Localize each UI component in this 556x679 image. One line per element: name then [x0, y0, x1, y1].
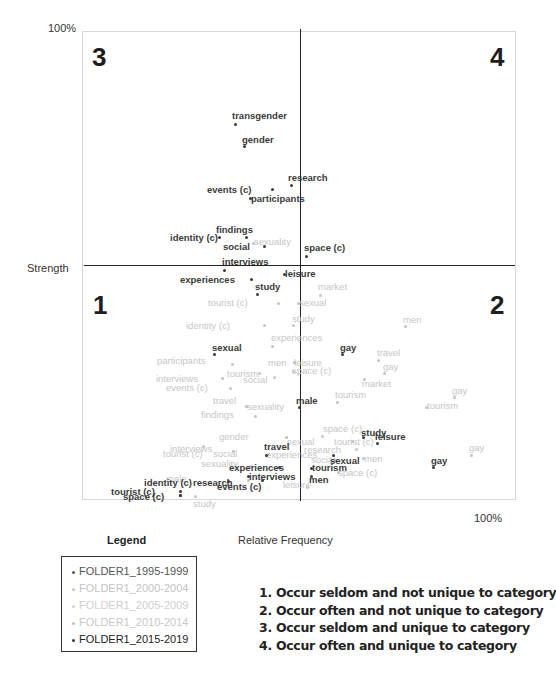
data-point-icon — [271, 188, 274, 191]
data-point-label: gender — [242, 135, 274, 145]
data-point-label: research — [288, 173, 328, 183]
legend-item-2010-2014: FOLDER1_2010-2014 — [72, 614, 196, 631]
data-point-icon — [470, 454, 473, 457]
data-point-icon — [271, 345, 274, 348]
legend-dot-icon — [72, 639, 75, 642]
data-point-icon — [273, 376, 276, 379]
data-point-label: identity (c) — [186, 321, 230, 331]
data-point-label: events (c) — [217, 482, 261, 492]
data-point-label: space (c) — [123, 492, 164, 502]
data-point-label: tourist (c) — [208, 298, 248, 308]
data-point-label: leisure — [375, 432, 406, 442]
data-point-label: study — [292, 314, 315, 324]
data-point-label: experiences — [180, 275, 235, 285]
data-point-label: sexual — [299, 298, 326, 308]
data-point-label: space (c) — [304, 243, 345, 253]
data-point-label: social — [243, 375, 267, 385]
quadrant-notes: 1. Occur seldom and not unique to catego… — [259, 584, 556, 654]
x-axis-label: Relative Frequency — [238, 534, 333, 546]
quadrant-label-3: 3 — [92, 42, 106, 73]
data-point-label: gay — [340, 343, 356, 353]
data-point-label: men — [268, 358, 286, 368]
data-point-label: male — [296, 396, 318, 406]
note-3: 3. Occur seldom and unique to category — [259, 619, 556, 637]
data-point-icon — [245, 236, 248, 239]
data-point-icon — [179, 494, 182, 497]
data-point-label: events (c) — [166, 383, 208, 393]
data-point-icon — [263, 245, 266, 248]
legend-label: FOLDER1_2005-2009 — [79, 599, 188, 611]
quadrant-label-2: 2 — [490, 290, 504, 321]
data-point-icon — [179, 490, 182, 493]
data-point-icon — [263, 324, 266, 327]
legend-label: FOLDER1_2015-2019 — [79, 633, 188, 645]
legend-dot-icon — [72, 571, 75, 574]
data-point-label: men — [403, 315, 421, 325]
data-point-label: tourism — [312, 463, 347, 473]
data-point-label: study — [255, 282, 280, 292]
legend-item-2005-2009: FOLDER1_2005-2009 — [72, 597, 196, 614]
data-point-icon — [321, 435, 324, 438]
legend-item-1995-1999: FOLDER1_1995-1999 — [72, 563, 196, 580]
data-point-label: tourist (c) — [163, 449, 203, 459]
legend: FOLDER1_1995-1999 FOLDER1_2000-2004 FOLD… — [61, 556, 197, 652]
y-axis-max-label: 100% — [48, 22, 76, 34]
data-point-label: identity (c) — [170, 233, 218, 243]
data-point-label: gay — [383, 362, 398, 372]
data-point-label: transgender — [232, 111, 287, 121]
legend-title: Legend — [107, 534, 146, 546]
data-point-label: sexuality — [254, 237, 291, 247]
data-point-icon — [305, 255, 308, 258]
data-point-icon — [355, 448, 358, 451]
quadrant-label-4: 4 — [490, 42, 504, 73]
data-point-label: gay — [469, 443, 484, 453]
data-point-icon — [223, 269, 226, 272]
data-point-label: gender — [219, 432, 249, 442]
data-point-icon — [234, 123, 237, 126]
data-point-label: experiences — [271, 333, 322, 343]
data-point-icon — [256, 293, 259, 296]
legend-label: FOLDER1_2000-2004 — [79, 582, 188, 594]
legend-item-2000-2004: FOLDER1_2000-2004 — [72, 580, 196, 597]
data-point-icon — [250, 278, 253, 281]
data-point-label: men — [309, 475, 329, 485]
data-point-icon — [254, 415, 257, 418]
horizontal-divider-line — [84, 265, 515, 266]
data-point-icon — [277, 302, 280, 305]
data-point-label: findings — [216, 225, 253, 235]
data-point-icon — [336, 401, 339, 404]
note-1: 1. Occur seldom and not unique to catego… — [259, 584, 556, 602]
data-point-label: participants — [251, 194, 305, 204]
x-axis-max-label: 100% — [474, 512, 502, 524]
data-point-label: leisure — [285, 269, 316, 279]
data-point-label: tourism — [427, 401, 458, 411]
data-point-label: findings — [201, 410, 234, 420]
legend-label: FOLDER1_2010-2014 — [79, 616, 188, 628]
legend-dot-icon — [72, 622, 75, 625]
legend-dot-icon — [72, 605, 75, 608]
legend-item-2015-2019: FOLDER1_2015-2019 — [72, 631, 196, 648]
data-point-label: space (c) — [292, 366, 331, 376]
data-point-icon — [265, 454, 268, 457]
data-point-label: interviews — [222, 257, 268, 267]
data-point-label: travel — [377, 348, 400, 358]
data-point-label: study — [193, 499, 216, 509]
data-point-label: travel — [264, 442, 289, 452]
data-point-icon — [290, 184, 293, 187]
note-2: 2. Occur often and not unique to categor… — [259, 602, 556, 620]
data-point-label: market — [318, 282, 347, 292]
data-point-label: gay — [452, 386, 467, 396]
quadrant-label-1: 1 — [93, 290, 107, 321]
legend-label: FOLDER1_1995-1999 — [79, 565, 188, 577]
data-point-label: space (c) — [323, 424, 362, 434]
data-point-icon — [229, 387, 232, 390]
data-point-label: social — [223, 242, 250, 252]
data-point-label: tourism — [335, 390, 366, 400]
data-point-label: sexual — [212, 343, 242, 353]
data-point-icon — [221, 377, 224, 380]
y-axis-label: Strength — [27, 262, 69, 274]
data-point-label: participants — [157, 356, 206, 366]
data-point-label: sexuality — [247, 402, 284, 412]
legend-dot-icon — [72, 588, 75, 591]
data-point-label: men — [364, 454, 382, 464]
